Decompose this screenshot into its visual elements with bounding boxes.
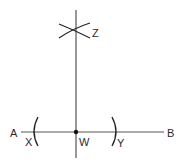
point-w-dot xyxy=(74,130,78,134)
label-y: Y xyxy=(117,137,125,149)
label-w: W xyxy=(79,136,90,148)
perpendicular-bisector-diagram: A B X W Y Z xyxy=(0,0,186,162)
label-x: X xyxy=(25,136,33,148)
label-a: A xyxy=(10,127,18,139)
arc-z-lower xyxy=(59,24,90,38)
label-b: B xyxy=(167,127,174,139)
label-z: Z xyxy=(92,27,99,39)
